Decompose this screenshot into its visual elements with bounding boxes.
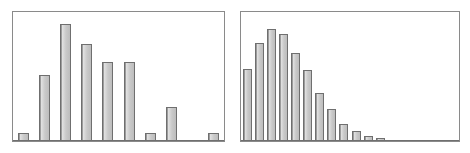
- histogram-left-bar: [60, 24, 71, 141]
- histogram-right-bar: [255, 43, 264, 141]
- plot-area-left: [13, 12, 224, 141]
- histogram-right-bar: [315, 93, 324, 141]
- histogram-left-bar: [124, 62, 135, 141]
- histogram-left-bar: [81, 44, 92, 141]
- histogram-left-bar: [166, 107, 177, 141]
- histogram-left-bar: [102, 62, 113, 141]
- histogram-right-bar: [303, 70, 312, 141]
- baseline-right: [241, 140, 459, 141]
- chart-panel-left: [12, 11, 225, 142]
- histogram-left-bar: [39, 75, 50, 141]
- histogram-right-bar: [327, 109, 336, 141]
- figure-container: [0, 0, 470, 153]
- histogram-right-bar: [243, 69, 252, 141]
- histogram-right-bar: [339, 124, 348, 141]
- histogram-right-bar: [267, 29, 276, 141]
- histogram-right-bar: [291, 53, 300, 141]
- plot-area-right: [241, 12, 459, 141]
- chart-panel-right: [240, 11, 460, 142]
- baseline-left: [13, 140, 224, 141]
- histogram-right-bar: [279, 34, 288, 141]
